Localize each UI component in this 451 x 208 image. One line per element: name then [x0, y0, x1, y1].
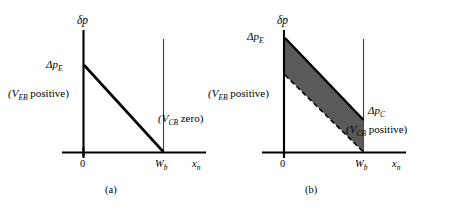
panel-b-y-axis-title: δp [277, 15, 288, 27]
panel-a-wb-label: Wb [155, 159, 168, 170]
panel-a-vcb-note-subscript: CB [168, 118, 178, 127]
panel-b-caption-text: (b) [305, 184, 317, 195]
panel-a-x-axis-title-text: x [192, 158, 197, 169]
panel-b-vcb-note: (VCB positive) [346, 124, 407, 135]
panel-a-origin-label-text: 0 [80, 158, 85, 169]
panel-b-veb-note-open: (V [208, 87, 218, 99]
panel-b-wb-label-text: W [355, 158, 364, 169]
panel-b: δp ΔpE (VEB positive) ΔpC (VCB positive)… [225, 0, 451, 208]
panel-a-x-axis-title: xn [192, 159, 200, 170]
panel-a-veb-note-rest: positive) [28, 87, 69, 99]
panel-b-vcb-note-subscript: CB [356, 129, 366, 138]
panel-b-veb-note: (VEB positive) [208, 88, 269, 99]
panel-a-delta-pe-subscript: E [58, 64, 63, 73]
panel-b-x-axis-title-text: x [392, 158, 397, 169]
panel-b-caption: (b) [305, 184, 317, 195]
panel-b-x-axis-title: xn [392, 159, 400, 170]
panel-a-delta-pe-text: Δp [46, 58, 58, 70]
panel-a-wb-label-text: W [155, 158, 164, 169]
figure-root: δp ΔpE (VEB positive) (VCB zero) 0 Wb xn… [0, 0, 451, 208]
panel-b-delta-pc-subscript: C [380, 110, 385, 119]
panel-a-delta-pe-label: ΔpE [46, 59, 63, 70]
panel-a-plot [0, 0, 226, 208]
panel-b-vcb-note-open: (V [346, 123, 356, 135]
panel-b-delta-pe-subscript: E [259, 36, 264, 45]
panel-a-origin-label: 0 [80, 159, 85, 170]
panel-b-origin-label: 0 [280, 159, 285, 170]
panel-b-delta-pe-label: ΔpE [247, 31, 264, 42]
panel-a-carrier-profile-line [84, 65, 164, 152]
panel-a-x-axis-title-subscript: n [197, 163, 201, 172]
panel-a-wb-label-subscript: b [164, 163, 168, 172]
panel-a-veb-note: (VEB positive) [8, 88, 69, 99]
panel-b-wb-label: Wb [355, 159, 368, 170]
panel-a-vcb-note-rest: zero) [178, 112, 203, 124]
panel-b-delta-pc-text: Δp [368, 104, 380, 116]
panel-b-vcb-note-rest: positive) [366, 123, 407, 135]
panel-b-delta-pe-text: Δp [247, 30, 259, 42]
panel-b-wb-label-subscript: b [364, 163, 368, 172]
panel-a-vcb-note: (VCB zero) [158, 113, 203, 124]
panel-a-y-axis-title-text: δp [77, 14, 88, 26]
panel-b-delta-pc-label: ΔpC [368, 105, 385, 116]
panel-a-veb-note-open: (V [8, 87, 18, 99]
panel-b-veb-note-subscript: EB [218, 93, 227, 102]
panel-a: δp ΔpE (VEB positive) (VCB zero) 0 Wb xn… [0, 0, 226, 208]
panel-a-y-axis-title: δp [77, 15, 88, 27]
panel-b-y-axis-title-text: δp [277, 14, 288, 26]
panel-a-vcb-note-open: (V [158, 112, 168, 124]
panel-b-veb-note-rest: positive) [228, 87, 269, 99]
panel-b-origin-label-text: 0 [280, 158, 285, 169]
panel-a-veb-note-subscript: EB [18, 93, 27, 102]
panel-a-caption-text: (a) [105, 184, 117, 195]
panel-b-x-axis-title-subscript: n [397, 163, 401, 172]
panel-a-caption: (a) [105, 184, 117, 195]
